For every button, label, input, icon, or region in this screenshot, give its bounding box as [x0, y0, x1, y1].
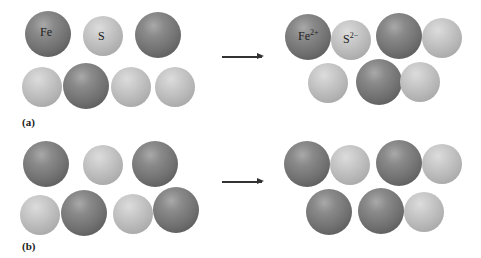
s-atom [155, 67, 195, 107]
s-atom [111, 67, 151, 107]
fe-symbol: Fe [298, 29, 310, 43]
reaction-arrow-a [222, 56, 262, 58]
fe-atom-label: Fe [40, 26, 52, 38]
fe-atom [61, 190, 107, 236]
s-symbol: S [343, 32, 350, 46]
reaction-arrow-b [222, 181, 262, 183]
s-atom [22, 67, 62, 107]
fe-ion [356, 59, 402, 105]
fe-ion [376, 140, 422, 186]
s-ion [400, 62, 440, 102]
s-ion [308, 63, 348, 103]
s-atom [113, 194, 153, 234]
s-charge: 2− [350, 31, 359, 40]
fe-ion-label: Fe2+ [298, 29, 319, 42]
panel-b-label: (b) [22, 240, 35, 252]
fe-charge: 2+ [310, 28, 319, 37]
s-ion [422, 18, 462, 58]
fe-ion [358, 188, 404, 234]
s-atom [20, 195, 60, 235]
fe-atom [135, 12, 181, 58]
fe-ion [284, 141, 330, 187]
s-atom [83, 145, 123, 185]
fe-atom [132, 141, 178, 187]
s-ion [422, 144, 462, 184]
s-ion-label: S2− [343, 32, 358, 45]
panel-a-label: (a) [22, 116, 35, 128]
fe-atom [153, 187, 199, 233]
s-ion [330, 145, 370, 185]
s-ion [404, 192, 444, 232]
fe-ion [376, 13, 422, 59]
fe-atom [23, 141, 69, 187]
fe-atom [63, 63, 109, 109]
s-atom-label: S [98, 30, 105, 42]
fe-ion [306, 189, 352, 235]
